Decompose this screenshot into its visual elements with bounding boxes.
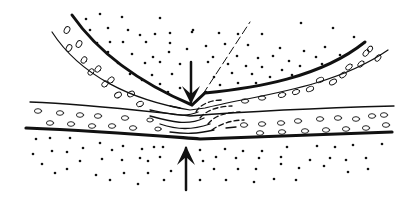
lower-stipple	[32, 137, 384, 186]
diagram-figure	[0, 0, 408, 203]
arrow-up-icon	[177, 146, 195, 190]
upper-plate-thick-line	[72, 15, 365, 105]
lower-plate-base-line	[26, 128, 392, 139]
upper-stipple	[85, 13, 356, 94]
upper-plate-ovals	[63, 26, 382, 108]
lower-plate-top-line	[30, 102, 394, 116]
arrow-down-icon	[182, 62, 200, 104]
plate-collision-diagram	[0, 0, 408, 203]
upper-plate-outer-line	[52, 32, 388, 110]
dashed-guide-line	[203, 22, 250, 94]
